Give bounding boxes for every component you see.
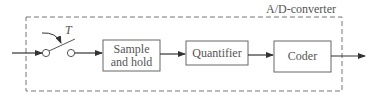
switch-control-arrow (42, 33, 61, 43)
svg-text:Sample: Sample (114, 42, 150, 56)
ad-converter-label: A/D-converter (266, 2, 336, 16)
ad-converter-diagram: A/D-converter T Sample and hold Quantifi… (0, 0, 377, 101)
switch-contact-left (42, 49, 49, 56)
svg-text:Quantifier: Quantifier (192, 46, 241, 60)
svg-text:Coder: Coder (288, 49, 317, 63)
switch-period-label: T (65, 23, 73, 37)
switch-contact-right (67, 49, 74, 56)
block-coder: Coder (274, 41, 331, 72)
block-sample-and-hold: Sample and hold (103, 40, 160, 71)
svg-text:and hold: and hold (111, 55, 153, 69)
block-quantifier: Quantifier (186, 41, 248, 65)
